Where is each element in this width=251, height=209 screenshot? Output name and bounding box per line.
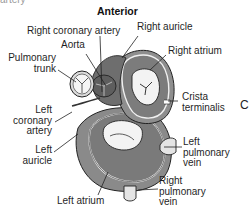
aorta-shape <box>92 75 116 97</box>
orientation-label: Anterior <box>97 5 138 17</box>
label-pulmonary-trunk: Pulmonary trunk <box>2 53 56 74</box>
label-right-auricle: Right auricle <box>137 22 193 33</box>
pulmonary-trunk-shape <box>70 71 94 97</box>
label-left-auricle: Left auricle <box>2 145 52 166</box>
heart-diagram: artery <box>0 0 251 209</box>
label-aorta: Aorta <box>61 40 85 51</box>
label-right-atrium: Right atrium <box>168 46 222 57</box>
label-right-pulmonary-vein: Right pulmonary vein <box>159 176 206 208</box>
label-right-coronary-artery: Right coronary artery <box>27 26 120 37</box>
panel-letter: C <box>240 98 249 112</box>
label-left-coronary-artery: Left coronary artery <box>2 105 52 137</box>
label-crista-terminalis: Crista terminalis <box>182 92 225 113</box>
label-left-atrium: Left atrium <box>57 196 104 207</box>
label-left-pulmonary-vein: Left pulmonary vein <box>183 137 230 169</box>
right-pulmonary-vein-shape <box>124 186 136 201</box>
left-coronary-artery-shape <box>72 98 100 106</box>
